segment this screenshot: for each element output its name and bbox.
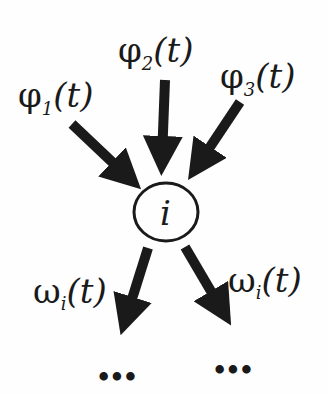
input-arrow-3 — [198, 102, 240, 165]
diagram-svg: i φ1(t) φ2(t) φ3(t) ωi(t) ωi(t) ••• ••• — [0, 0, 328, 394]
diagram-canvas: i φ1(t) φ2(t) φ3(t) ωi(t) ωi(t) ••• ••• — [0, 0, 328, 394]
input-label-1: φ1(t) — [18, 75, 93, 119]
input-arrow-1 — [72, 124, 128, 177]
output-label-right: ωi(t) — [228, 260, 302, 303]
input-label-2: φ2(t) — [118, 30, 193, 74]
output-label-left: ωi(t) — [33, 271, 107, 314]
continuation-right: ••• — [212, 355, 252, 384]
continuation-left: ••• — [96, 362, 136, 391]
output-arrow-right — [185, 247, 222, 310]
input-label-3: φ3(t) — [220, 56, 295, 100]
node-label: i — [160, 193, 171, 233]
input-arrow-2 — [162, 80, 165, 158]
output-arrow-left — [126, 248, 148, 318]
